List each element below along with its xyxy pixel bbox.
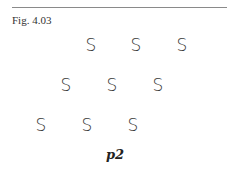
motif-s: S	[59, 76, 73, 94]
motif-s: S	[84, 36, 98, 54]
top-rule	[12, 7, 227, 8]
motif-s: S	[126, 116, 140, 134]
motif-s: S	[80, 116, 94, 134]
motif-s: S	[105, 76, 119, 94]
motif-s: S	[175, 36, 189, 54]
figure-label: Fig. 4.03	[12, 14, 51, 26]
motif-s: S	[34, 116, 48, 134]
motif-s: S	[129, 36, 143, 54]
wallpaper-group-label: p2	[106, 147, 124, 162]
motif-s: S	[151, 76, 165, 94]
